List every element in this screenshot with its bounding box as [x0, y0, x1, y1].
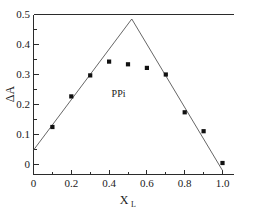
data-point-marker	[126, 62, 130, 66]
y-tick-label: 0	[25, 158, 31, 170]
y-axis-title: ΔA	[3, 85, 17, 102]
x-tick-label: 1.0	[216, 177, 230, 189]
plot-background	[33, 14, 222, 174]
data-point-marker	[69, 94, 73, 98]
x-tick-label: 0	[31, 177, 37, 189]
chart-figure: 0.5 0.4 0.3 0.2 0.1 0 0 0.2 0.4 0.6 0.8 …	[0, 0, 266, 221]
x-axis-title-subscript: L	[131, 200, 136, 209]
y-tick-label: 0.3	[16, 68, 30, 80]
data-point-marker	[88, 73, 92, 77]
x-tick-label: 0.2	[64, 177, 78, 189]
x-tick-label: 0.4	[102, 177, 116, 189]
data-point-marker	[164, 72, 168, 76]
data-point-marker	[183, 110, 187, 114]
y-tick-label: 0.5	[16, 8, 30, 20]
data-point-marker	[107, 60, 111, 64]
y-tick-label: 0.4	[16, 38, 30, 50]
y-axis-tick-labels: 0.5 0.4 0.3 0.2 0.1 0	[16, 8, 30, 170]
y-tick-label: 0.1	[16, 128, 30, 140]
data-point-marker	[220, 161, 224, 165]
x-axis-title: X L	[120, 193, 136, 209]
data-point-marker	[50, 125, 54, 129]
x-axis-title-main: X	[120, 193, 129, 207]
data-point-marker	[145, 66, 149, 70]
x-axis-tick-labels: 0 0.2 0.4 0.6 0.8 1.0	[31, 177, 230, 189]
x-tick-label: 0.8	[178, 177, 192, 189]
job-plot-chart: 0.5 0.4 0.3 0.2 0.1 0 0 0.2 0.4 0.6 0.8 …	[0, 0, 266, 221]
y-tick-label: 0.2	[16, 98, 30, 110]
series-annotation-label: PPi	[112, 88, 126, 99]
data-point-marker	[202, 129, 206, 133]
x-tick-label: 0.6	[140, 177, 154, 189]
